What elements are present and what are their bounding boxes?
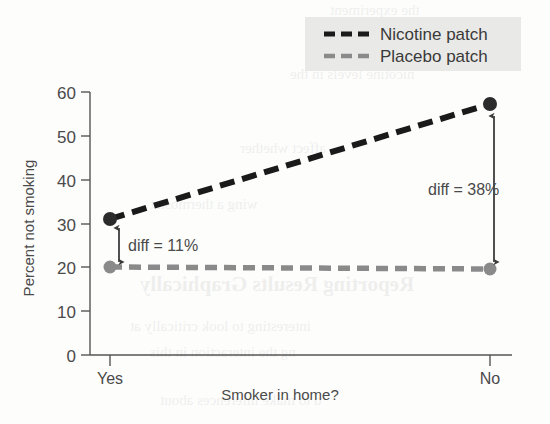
series-line-nicotine [110, 104, 490, 219]
data-point-nicotine-yes[interactable] [103, 212, 117, 226]
annotation-label-diff-no: diff = 38% [428, 181, 499, 198]
legend-label-placebo: Placebo patch [380, 47, 488, 66]
chart-legend: Nicotine patch Placebo patch [305, 17, 521, 71]
data-point-nicotine-no[interactable] [483, 97, 497, 111]
x-tick-label-yes: Yes [97, 370, 123, 387]
series-placebo-patch [104, 261, 497, 276]
y-tick-label-50: 50 [57, 128, 76, 147]
y-tick-label-30: 30 [57, 216, 76, 235]
y-tick-label-40: 40 [57, 172, 76, 191]
x-axis-title: Smoker in home? [221, 386, 339, 403]
annotation-diff-no: diff = 38% [428, 116, 499, 262]
legend-label-nicotine: Nicotine patch [380, 25, 488, 44]
series-line-placebo [110, 267, 490, 269]
data-point-placebo-yes[interactable] [104, 261, 117, 274]
y-tick-label-20: 20 [57, 259, 76, 278]
x-tick-label-no: No [480, 370, 501, 387]
annotation-label-diff-yes: diff = 11% [128, 237, 198, 254]
y-tick-label-10: 10 [57, 303, 76, 322]
chart-axes: 60 50 40 30 20 10 0 Yes No Smoker in hom… [20, 84, 512, 403]
series-nicotine-patch [103, 97, 497, 226]
data-point-placebo-no[interactable] [484, 263, 497, 276]
y-axis-title: Percent not smoking [20, 160, 37, 297]
y-tick-label-0: 0 [67, 347, 76, 366]
line-chart: Nicotine patch Placebo patch 60 50 [0, 0, 550, 424]
annotation-diff-yes: diff = 11% [119, 228, 198, 262]
figure-page: the experiment er growth and nicotine le… [0, 0, 550, 424]
y-tick-label-60: 60 [57, 84, 76, 103]
